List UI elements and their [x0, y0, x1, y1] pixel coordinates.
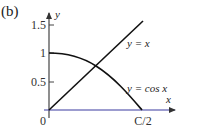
y-tick-label-0.5: 0.5: [31, 75, 46, 89]
label-y-equals-x: y = x: [126, 37, 150, 49]
y-tick-label-1: 1: [40, 46, 46, 60]
chart: 1.5 1 0.5 0 C/2 y x y = x y = cos x: [0, 0, 202, 134]
y-axis-label: y: [54, 8, 60, 20]
x-tick-label-pi-over-2: C/2: [134, 114, 151, 128]
x-axis-label: x: [165, 93, 171, 105]
label-y-equals-cos-x: y = cos x: [126, 82, 167, 94]
x-tick-label-0: 0: [40, 114, 46, 128]
y-tick-label-1.5: 1.5: [31, 18, 46, 32]
